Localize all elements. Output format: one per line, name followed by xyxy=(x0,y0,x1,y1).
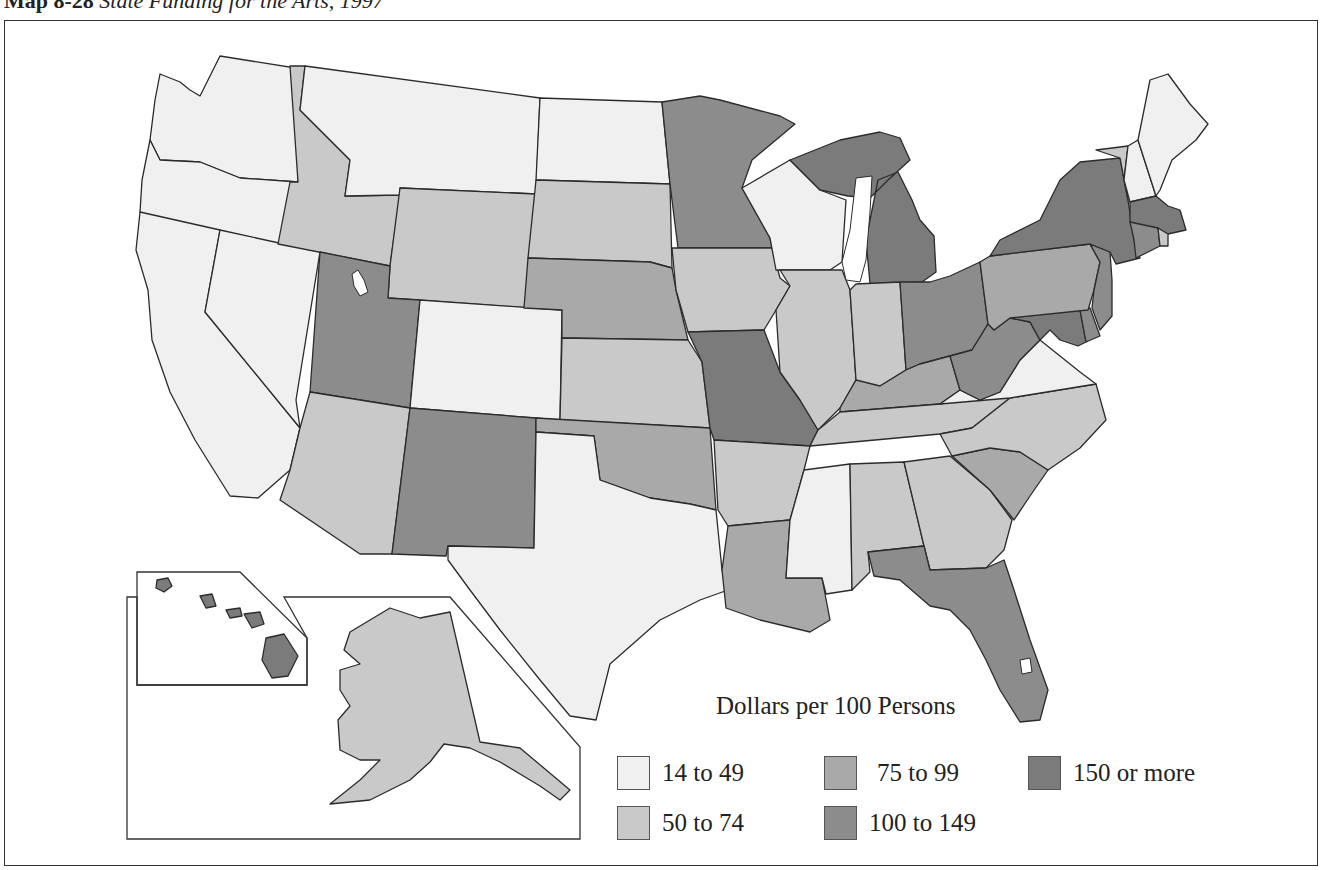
legend-item-75-99: 75 to 99 xyxy=(824,756,959,790)
legend-item-14-49: 14 to 49 xyxy=(617,756,744,790)
legend-label: 100 to 149 xyxy=(869,809,976,837)
legend-label: 50 to 74 xyxy=(662,809,744,837)
legend-swatch xyxy=(824,806,857,840)
legend-title: Dollars per 100 Persons xyxy=(716,692,956,720)
legend-item-150-plus: 150 or more xyxy=(1028,756,1195,790)
state-nd[interactable] xyxy=(536,98,670,184)
legend-label: 14 to 49 xyxy=(662,759,744,787)
legend-swatch xyxy=(824,756,857,790)
us-map xyxy=(0,0,1322,870)
state-co[interactable] xyxy=(410,300,562,420)
legend-label: 150 or more xyxy=(1073,759,1195,787)
state-wy[interactable] xyxy=(388,188,536,308)
state-sd[interactable] xyxy=(528,180,672,268)
state-ia[interactable] xyxy=(672,248,790,332)
legend-swatch xyxy=(1028,756,1061,790)
state-az[interactable] xyxy=(280,392,410,554)
legend-label: 75 to 99 xyxy=(877,759,959,787)
legend-item-50-74: 50 to 74 xyxy=(617,806,744,840)
legend-swatch xyxy=(617,806,650,840)
legend-swatch xyxy=(617,756,650,790)
legend-item-100-149: 100 to 149 xyxy=(824,806,976,840)
state-nm[interactable] xyxy=(392,408,536,556)
lake-okeechobee xyxy=(1020,658,1032,674)
state-ks[interactable] xyxy=(560,338,710,428)
